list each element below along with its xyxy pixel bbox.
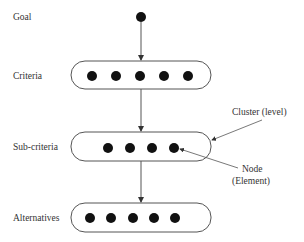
goal-node xyxy=(136,12,146,22)
alternatives-cluster xyxy=(71,203,211,232)
sub-criteria-node xyxy=(103,143,113,153)
criteria-node xyxy=(135,71,145,81)
alternative-node xyxy=(170,213,180,223)
criteria-node xyxy=(159,71,169,81)
criteria-node xyxy=(183,71,193,81)
node-annotation-line1: Node xyxy=(242,164,263,174)
level-label-criteria: Criteria xyxy=(13,71,43,81)
level-label-sub-criteria: Sub-criteria xyxy=(13,142,59,152)
level-label-alternatives: Alternatives xyxy=(13,213,60,223)
alternative-node xyxy=(85,213,95,223)
alternative-node xyxy=(106,213,116,223)
criteria-node xyxy=(87,71,97,81)
alternative-node xyxy=(128,213,138,223)
cluster-annotation: Cluster (level) xyxy=(232,107,287,118)
level-label-goal: Goal xyxy=(13,12,32,22)
sub-criteria-node xyxy=(169,143,179,153)
ahp-hierarchy-diagram: Goal Criteria Sub-criteria Alternatives … xyxy=(0,0,304,242)
sub-criteria-cluster xyxy=(71,132,211,161)
criteria-node xyxy=(111,71,121,81)
cluster-pointer-arrow xyxy=(212,120,262,140)
sub-criteria-node xyxy=(125,143,135,153)
sub-criteria-node xyxy=(147,143,157,153)
criteria-cluster xyxy=(71,61,211,89)
node-annotation-line2: (Element) xyxy=(232,176,270,187)
alternative-node xyxy=(149,213,159,223)
